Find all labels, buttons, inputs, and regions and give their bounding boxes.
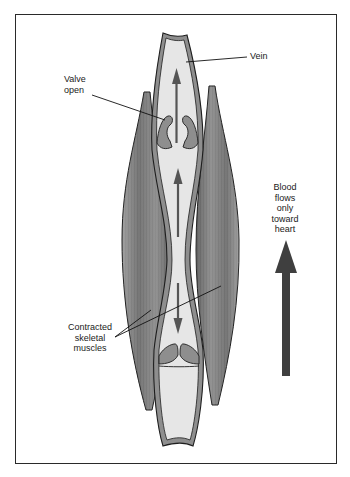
label-valve-open: Valve open — [64, 74, 86, 95]
label-contracted-skeletal-muscles: Contracted skeletal muscles — [62, 322, 118, 354]
vein-leader-line — [186, 57, 247, 62]
label-blood-flows-toward-heart: Blood flows only toward heart — [266, 182, 304, 235]
label-vein: Vein — [250, 51, 268, 62]
flow-direction-arrow-icon — [275, 240, 297, 376]
vein-muscle-diagram — [0, 0, 350, 477]
